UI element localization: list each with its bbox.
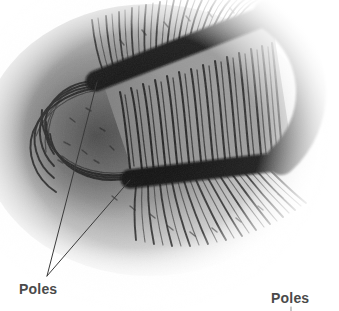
magnet-field-figure: Poles Poles xyxy=(0,0,339,311)
pole-leader-lines xyxy=(0,0,339,311)
label-poles-right: Poles xyxy=(271,291,309,305)
label-poles-left: Poles xyxy=(19,282,57,296)
